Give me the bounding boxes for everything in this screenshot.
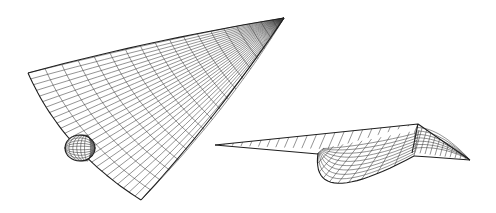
waverider-side-view [215,124,470,183]
wireframe-figure [0,0,496,213]
canopy-bulge [65,135,95,161]
waverider-oblique-view [28,18,284,200]
